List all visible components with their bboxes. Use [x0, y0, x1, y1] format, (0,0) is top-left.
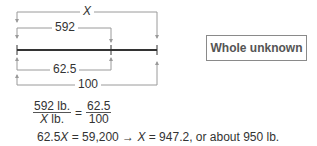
solution-result: = 947.2, or about 950 lb.	[145, 130, 279, 144]
part-top-label: 592	[52, 21, 78, 34]
left-fraction: 592 lb. X lb.	[33, 100, 71, 125]
den-variable: X	[40, 112, 48, 126]
solution-mid: = 59,200 →	[68, 130, 137, 144]
solution-line: 62.5X = 59,200 → X = 947.2, or about 950…	[37, 130, 279, 144]
whole-unknown-box: Whole unknown	[206, 35, 307, 61]
right-fraction: 62.5 100	[86, 100, 111, 125]
part-bottom-label: 62.5	[50, 63, 79, 76]
whole-top-label: X	[80, 5, 94, 18]
den-unit: lb.	[48, 112, 64, 126]
right-denominator: 100	[89, 113, 109, 125]
left-denominator: X lb.	[40, 113, 64, 125]
equals-sign: =	[75, 106, 82, 120]
box-label: Whole unknown	[211, 41, 303, 55]
solution-coef: 62.5	[37, 130, 60, 144]
proportion-equation: 592 lb. X lb. = 62.5 100	[33, 100, 111, 125]
whole-bottom-label: 100	[75, 78, 101, 91]
